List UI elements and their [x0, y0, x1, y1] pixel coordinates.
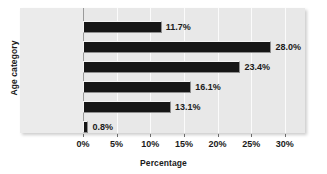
bar-35-44	[83, 81, 191, 93]
bar-row: 23.4%	[83, 57, 305, 77]
x-axis-tick-labels: 0% 5% 10% 15% 20% 25% 30%	[83, 134, 305, 150]
bar-chart: Age category Under 18 18–24 25–34 35–44 …	[0, 0, 327, 174]
x-tick-mark-5	[117, 134, 118, 137]
x-tick-label-20: 20%	[208, 139, 226, 149]
bar-row: 13.1%	[83, 97, 305, 117]
x-tick-label-0: 0%	[76, 139, 89, 149]
x-tick-label-10: 10%	[141, 139, 159, 149]
x-tick-label-30: 30%	[276, 139, 294, 149]
plot-panel: 11.7% 28.0% 23.4% 16.1% 13.1% 0.8%	[20, 8, 305, 133]
bar-45-64	[83, 101, 171, 113]
x-tick-label-15: 15%	[175, 139, 193, 149]
x-tick-mark-10	[150, 134, 151, 137]
bar-value-over-65: 0.8%	[88, 121, 113, 133]
bar-value-under-18: 11.7%	[162, 21, 191, 33]
x-tick-mark-20	[218, 134, 219, 137]
bar-row: 11.7%	[83, 17, 305, 37]
x-tick-mark-30	[285, 134, 286, 137]
plot-area: 11.7% 28.0% 23.4% 16.1% 13.1% 0.8%	[83, 8, 305, 133]
x-tick-mark-15	[184, 134, 185, 137]
bar-18-24	[83, 41, 271, 53]
bar-25-34	[83, 61, 240, 73]
bar-value-35-44: 16.1%	[191, 81, 221, 93]
x-tick-label-5: 5%	[110, 139, 123, 149]
bar-row: 16.1%	[83, 77, 305, 97]
bar-value-25-34: 23.4%	[240, 61, 270, 73]
x-tick-label-25: 25%	[242, 139, 260, 149]
x-axis-title: Percentage	[0, 158, 327, 168]
bar-row: 28.0%	[83, 37, 305, 57]
bar-value-18-24: 28.0%	[271, 41, 301, 53]
bar-under-18	[83, 21, 162, 33]
x-tick-mark-0	[83, 134, 84, 137]
bar-value-45-64: 13.1%	[171, 101, 201, 113]
x-tick-mark-25	[251, 134, 252, 137]
